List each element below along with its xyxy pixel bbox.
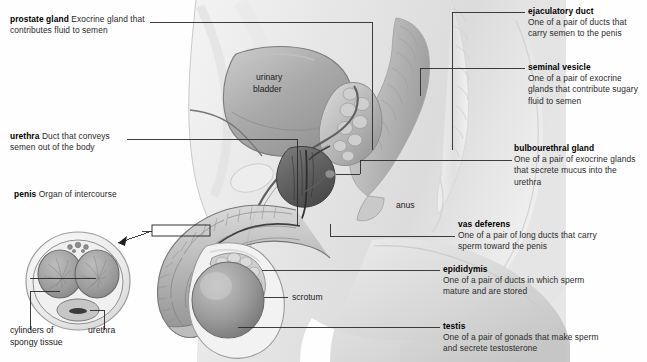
callout-prostate-gland: prostate gland Exocrine gland that contr… bbox=[10, 14, 150, 36]
callout-bulbourethral-gland: bulbourethral gland One of a pair of exo… bbox=[514, 143, 642, 188]
label-urinary-bladder-line1: urinary bbox=[256, 72, 282, 83]
callout-ejaculatory-duct-term: ejaculatory duct bbox=[528, 6, 646, 17]
callout-seminal-vesicle-term: seminal vesicle bbox=[528, 62, 642, 73]
callout-epididymis-term: epididymis bbox=[443, 264, 603, 275]
callout-bulbourethral-gland-term: bulbourethral gland bbox=[514, 143, 642, 154]
figure-canvas: prostate gland Exocrine gland that contr… bbox=[0, 0, 647, 362]
callout-urethra: urethra Duct that conveys semen out of t… bbox=[10, 131, 132, 153]
callout-epididymis-desc: One of a pair of ducts in which sperm ma… bbox=[443, 275, 603, 297]
label-scrotum: scrotum bbox=[292, 292, 323, 303]
label-anus: anus bbox=[396, 200, 415, 211]
callout-testis: testis One of a pair of gonads that make… bbox=[443, 321, 615, 355]
callout-ejaculatory-duct-desc: One of a pair of ducts that carry semen … bbox=[528, 17, 646, 39]
testis bbox=[192, 262, 264, 338]
label-cylinders-line1: cylinders of bbox=[10, 325, 53, 336]
label-urinary-bladder-line2: bladder bbox=[253, 84, 282, 95]
callout-vas-deferens-term: vas deferens bbox=[458, 219, 604, 230]
callout-penis: penis Organ of intercourse bbox=[14, 189, 164, 200]
label-cross-section-urethra: urethra bbox=[88, 325, 115, 336]
callout-prostate-gland-term: prostate gland bbox=[10, 14, 69, 24]
callout-epididymis: epididymis One of a pair of ducts in whi… bbox=[443, 264, 603, 298]
callout-vas-deferens: vas deferens One of a pair of long ducts… bbox=[458, 219, 604, 253]
callout-bulbourethral-gland-desc: One of a pair of exocrine glands that se… bbox=[514, 154, 642, 188]
callout-ejaculatory-duct: ejaculatory duct One of a pair of ducts … bbox=[528, 6, 646, 40]
callout-seminal-vesicle: seminal vesicle One of a pair of exocrin… bbox=[528, 62, 642, 107]
callout-testis-term: testis bbox=[443, 321, 615, 332]
callout-penis-desc: Organ of intercourse bbox=[39, 189, 117, 199]
callout-vas-deferens-desc: One of a pair of long ducts that carry s… bbox=[458, 230, 604, 252]
label-cylinders-line2: spongy tissue bbox=[10, 337, 63, 348]
callout-urethra-term: urethra bbox=[10, 131, 39, 141]
callout-seminal-vesicle-desc: One of a pair of exocrine glands that co… bbox=[528, 73, 642, 107]
cross-section-urethra-lumen bbox=[69, 308, 87, 314]
callout-penis-term: penis bbox=[14, 189, 36, 199]
penis-cross-section bbox=[26, 232, 130, 330]
callout-testis-desc: One of a pair of gonads that make sperm … bbox=[443, 332, 615, 354]
